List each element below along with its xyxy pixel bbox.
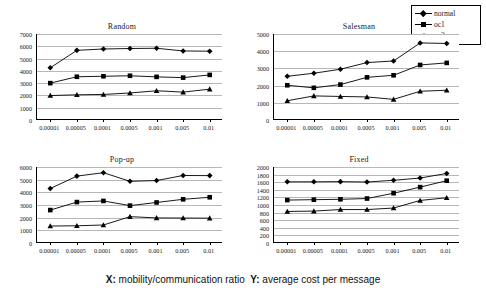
- y-tick-label: 2000: [257, 164, 269, 171]
- x-tick-label: 0.01: [440, 247, 451, 254]
- data-point-diamond: [47, 186, 53, 192]
- y-tick-label: 800: [260, 209, 269, 216]
- data-point-square: [338, 197, 343, 202]
- chart-title: Fixed: [245, 155, 473, 164]
- data-point-square: [391, 191, 396, 196]
- y-tick-label: 0: [29, 240, 32, 247]
- data-point-square: [75, 74, 80, 79]
- data-point-diamond: [207, 173, 213, 179]
- y-tick-label: 1600: [257, 179, 269, 186]
- y-tick-label: 0: [29, 117, 32, 124]
- data-point-square: [365, 75, 370, 80]
- legend-item-normal: normal: [415, 8, 477, 19]
- data-point-square: [444, 178, 449, 183]
- data-point-square: [312, 86, 317, 91]
- data-point-square: [181, 75, 186, 80]
- data-point-square: [207, 73, 212, 78]
- x-tick-label: 0.0001: [331, 247, 348, 254]
- data-point-diamond: [444, 171, 450, 177]
- data-point-diamond: [101, 46, 107, 52]
- data-point-diamond: [101, 170, 107, 176]
- caption-y-prefix: Y:: [250, 274, 259, 285]
- data-point-diamond: [364, 179, 370, 185]
- legend-label: normal: [432, 8, 455, 19]
- data-point-diamond: [180, 173, 186, 179]
- y-tick-label: 1200: [257, 194, 269, 201]
- data-point-square: [391, 73, 396, 78]
- data-point-square: [128, 203, 133, 208]
- x-tick-label: 0.005: [412, 124, 426, 131]
- data-point-diamond: [47, 65, 53, 71]
- caption-y-value: average cost per message: [262, 274, 380, 285]
- data-point-square: [75, 200, 80, 205]
- y-tick-label: 1800: [257, 171, 269, 178]
- x-tick-label: 0.001: [149, 247, 163, 254]
- data-point-square: [154, 200, 159, 205]
- y-tick-label: 1000: [20, 227, 32, 234]
- x-tick-label: 0.01: [203, 124, 214, 131]
- x-tick-label: 0.00005: [303, 124, 323, 131]
- data-point-square: [285, 83, 290, 88]
- data-point-diamond: [154, 45, 160, 51]
- x-tick-label: 0.005: [412, 247, 426, 254]
- data-point-square: [444, 61, 449, 66]
- y-tick-label: 2000: [20, 214, 32, 221]
- y-tick-label: 0: [266, 117, 269, 124]
- x-tick-label: 0.001: [386, 124, 400, 131]
- y-tick-label: 5000: [20, 176, 32, 183]
- plot-area: [273, 167, 459, 243]
- x-tick-label: 0.0005: [357, 124, 374, 131]
- series-layer: [37, 167, 223, 243]
- x-tick-label: 0.0001: [94, 247, 111, 254]
- y-axis-labels: 0200400600800100012001400160018002000: [245, 167, 271, 243]
- series-layer: [274, 167, 460, 243]
- series-layer: [274, 34, 460, 120]
- x-tick-label: 0.001: [149, 124, 163, 131]
- data-point-diamond: [338, 66, 344, 72]
- plot-area: [36, 167, 222, 243]
- data-point-square: [365, 196, 370, 201]
- data-point-diamond: [417, 175, 423, 181]
- x-tick-label: 0.00005: [66, 247, 86, 254]
- series-layer: [37, 34, 223, 120]
- x-tick-label: 0.0005: [120, 124, 137, 131]
- data-point-square: [181, 197, 186, 202]
- x-tick-label: 0.005: [175, 247, 189, 254]
- y-axis-labels: 01000200030004000500060007000: [8, 34, 34, 120]
- x-tick-label: 0.01: [203, 247, 214, 254]
- x-tick-label: 0.00001: [276, 124, 296, 131]
- data-point-diamond: [338, 179, 344, 185]
- x-tick-label: 0.0005: [357, 247, 374, 254]
- x-tick-label: 0.00005: [303, 247, 323, 254]
- y-tick-label: 200: [260, 232, 269, 239]
- y-tick-label: 600: [260, 217, 269, 224]
- data-point-triangle: [207, 86, 213, 91]
- data-point-diamond: [284, 179, 290, 185]
- y-tick-label: 1400: [257, 186, 269, 193]
- data-point-square: [101, 74, 106, 79]
- y-tick-label: 1000: [257, 99, 269, 106]
- x-tick-label: 0.00001: [39, 124, 59, 131]
- y-tick-label: 400: [260, 224, 269, 231]
- chart-title: Salesman: [245, 22, 473, 31]
- data-point-diamond: [207, 48, 213, 54]
- y-tick-label: 2000: [20, 92, 32, 99]
- data-point-square: [48, 208, 53, 213]
- data-point-square: [128, 73, 133, 78]
- data-point-diamond: [154, 178, 160, 184]
- x-tick-label: 0.0005: [120, 247, 137, 254]
- chart-panel-fixed: Fixed 0200400600800100012001400160018002…: [245, 155, 473, 265]
- y-tick-label: 6000: [20, 164, 32, 171]
- y-tick-label: 3000: [20, 80, 32, 87]
- data-point-square: [101, 199, 106, 204]
- data-point-diamond: [444, 41, 450, 47]
- data-point-diamond: [364, 60, 370, 66]
- chart-panel-random: Random 01000200030004000500060007000 0.0…: [8, 22, 236, 144]
- data-point-diamond: [127, 179, 133, 185]
- x-tick-label: 0.0001: [331, 124, 348, 131]
- data-point-diamond: [74, 173, 80, 179]
- y-tick-label: 3000: [257, 65, 269, 72]
- data-point-diamond: [180, 48, 186, 54]
- chart-panel-salesman: Salesman 010002000300040005000 0.000010.…: [245, 22, 473, 144]
- data-point-diamond: [127, 46, 133, 52]
